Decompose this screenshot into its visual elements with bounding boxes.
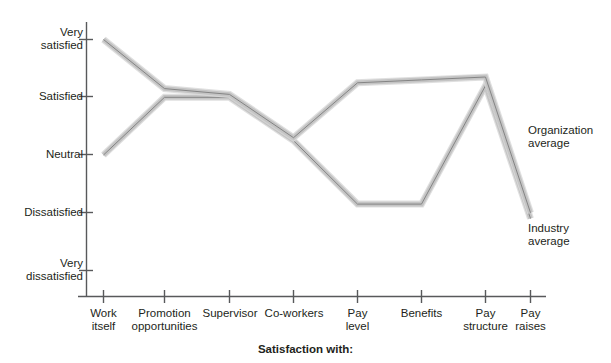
y-tick-label-line1: Very xyxy=(13,26,83,39)
x-axis-title: Satisfaction with: xyxy=(0,343,611,355)
series-label-line2: average xyxy=(528,235,570,248)
y-tick-label-line1: Satisfied xyxy=(13,90,83,103)
series-label-line2: average xyxy=(528,137,593,150)
y-tick-label-line1: Neutral xyxy=(13,148,83,161)
x-tick-label-line2: raises xyxy=(501,320,560,333)
y-tick-label-dissatisfied: Dissatisfied xyxy=(3,206,83,219)
x-tick-label-line2: level xyxy=(327,320,388,333)
y-tick-label-neutral: Neutral xyxy=(13,148,83,161)
x-tick-label-co-workers: Co-workers xyxy=(256,307,332,320)
satisfaction-line-chart: Very satisfied Satisfied Neutral Dissati… xyxy=(0,0,611,363)
y-tick-label-line1: Very xyxy=(3,257,83,270)
series-label-industry-average: Industry average xyxy=(528,222,570,248)
series-label-line1: Organization xyxy=(528,124,593,137)
y-tick-label-line1: Dissatisfied xyxy=(3,206,83,219)
series-label-line1: Industry xyxy=(528,222,570,235)
x-tick-label-line1: Pay xyxy=(501,307,560,320)
y-tick-label-satisfied: Satisfied xyxy=(13,90,83,103)
x-tick-label-pay-raises: Pay raises xyxy=(501,307,560,333)
series-label-organization-average: Organization average xyxy=(528,124,593,150)
y-tick-label-very-satisfied: Very satisfied xyxy=(13,26,83,52)
y-tick-label-line2: satisfied xyxy=(13,39,83,52)
x-tick-label-line1: Co-workers xyxy=(256,307,332,320)
x-tick-label-line2: opportunities xyxy=(119,320,210,333)
y-tick-label-very-dissatisfied: Very dissatisfied xyxy=(3,257,83,283)
series-industry-average xyxy=(104,86,531,219)
x-tick-label-line1: Pay xyxy=(327,307,388,320)
y-tick-label-line2: dissatisfied xyxy=(3,270,83,283)
x-tick-label-pay-level: Pay level xyxy=(327,307,388,333)
